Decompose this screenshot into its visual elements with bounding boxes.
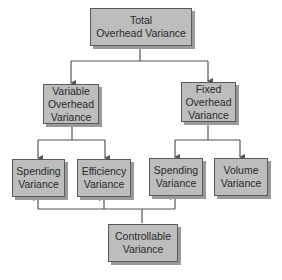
node-volume-variance: Volume Variance xyxy=(214,158,268,196)
node-label-line: Controllable xyxy=(115,230,171,243)
node-label-line: Spending xyxy=(16,165,60,178)
node-label-line: Variance xyxy=(84,178,125,191)
node-spending-variance-fixed: Spending Variance xyxy=(149,158,203,196)
node-label-line: Variance xyxy=(51,111,92,124)
node-label-line: Variance xyxy=(123,243,164,256)
overhead-variance-diagram: Total Overhead Variance Variable Overhea… xyxy=(0,0,282,280)
node-label-line: Volume xyxy=(223,164,258,177)
node-spending-variance-variable: Spending Variance xyxy=(12,159,65,197)
node-label-line: Variance xyxy=(188,109,229,122)
node-label-line: Fixed xyxy=(196,83,222,96)
node-label-line: Variance xyxy=(221,177,262,190)
node-label-line: Total xyxy=(130,14,152,27)
node-label-line: Overhead xyxy=(185,96,231,109)
node-label-line: Overhead xyxy=(48,98,94,111)
node-label-line: Variance xyxy=(18,178,59,191)
node-label-line: Overhead Variance xyxy=(96,27,186,40)
node-controllable-variance: Controllable Variance xyxy=(108,224,178,262)
node-label-line: Variable xyxy=(52,85,90,98)
node-fixed-overhead-variance: Fixed Overhead Variance xyxy=(181,82,236,122)
node-efficiency-variance: Efficiency Variance xyxy=(77,159,131,197)
node-total-overhead-variance: Total Overhead Variance xyxy=(90,8,192,46)
node-label-line: Efficiency xyxy=(82,165,127,178)
node-variable-overhead-variance: Variable Overhead Variance xyxy=(43,84,99,124)
node-label-line: Variance xyxy=(156,177,197,190)
node-label-line: Spending xyxy=(154,164,198,177)
